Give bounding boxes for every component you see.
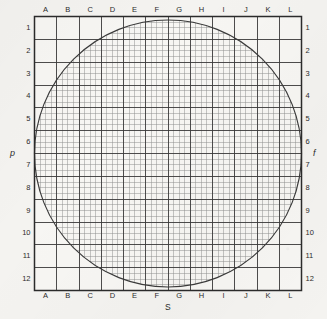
col-label-bottom-c: C xyxy=(82,292,98,300)
grid-chart-canvas xyxy=(0,0,327,319)
col-label-top-a: A xyxy=(38,6,54,14)
col-label-top-j: J xyxy=(238,6,254,14)
row-label-left-12: 12 xyxy=(13,275,31,283)
row-label-right-7: 7 xyxy=(306,161,324,169)
row-label-left-7: 7 xyxy=(13,161,31,169)
col-label-bottom-d: D xyxy=(104,292,120,300)
col-label-bottom-f: F xyxy=(149,292,165,300)
col-label-bottom-b: B xyxy=(60,292,76,300)
col-label-bottom-i: I xyxy=(216,292,232,300)
row-label-left-1: 1 xyxy=(13,24,31,32)
col-label-bottom-l: L xyxy=(282,292,298,300)
row-label-right-2: 2 xyxy=(306,47,324,55)
col-label-top-i: I xyxy=(216,6,232,14)
col-label-top-e: E xyxy=(127,6,143,14)
row-label-right-6: 6 xyxy=(306,138,324,146)
row-label-left-6: 6 xyxy=(13,138,31,146)
col-label-top-l: L xyxy=(282,6,298,14)
row-label-right-5: 5 xyxy=(306,115,324,123)
col-label-bottom-a: A xyxy=(38,292,54,300)
col-label-bottom-h: H xyxy=(193,292,209,300)
row-label-right-9: 9 xyxy=(306,207,324,215)
axis-title-bottom: S xyxy=(165,303,171,312)
row-label-left-3: 3 xyxy=(13,70,31,78)
row-label-left-11: 11 xyxy=(13,252,31,260)
figure-root: ABCDEFGHIJKL ABCDEFGHIJKL 12345678910111… xyxy=(0,0,327,319)
col-label-top-c: C xyxy=(82,6,98,14)
row-label-left-10: 10 xyxy=(13,229,31,237)
row-label-right-11: 11 xyxy=(306,252,324,260)
col-label-top-k: K xyxy=(260,6,276,14)
row-label-left-9: 9 xyxy=(13,207,31,215)
col-label-top-d: D xyxy=(104,6,120,14)
col-label-bottom-j: J xyxy=(238,292,254,300)
row-label-right-1: 1 xyxy=(306,24,324,32)
col-label-bottom-k: K xyxy=(260,292,276,300)
col-label-bottom-e: E xyxy=(127,292,143,300)
row-label-left-4: 4 xyxy=(13,92,31,100)
row-label-left-8: 8 xyxy=(13,184,31,192)
axis-title-left: p xyxy=(10,149,15,158)
axis-title-right: f xyxy=(313,149,316,158)
row-label-left-2: 2 xyxy=(13,47,31,55)
row-label-right-10: 10 xyxy=(306,229,324,237)
row-label-right-8: 8 xyxy=(306,184,324,192)
row-label-right-12: 12 xyxy=(306,275,324,283)
col-label-top-f: F xyxy=(149,6,165,14)
col-label-top-g: G xyxy=(171,6,187,14)
col-label-top-h: H xyxy=(193,6,209,14)
row-label-right-3: 3 xyxy=(306,70,324,78)
row-label-right-4: 4 xyxy=(306,92,324,100)
row-label-left-5: 5 xyxy=(13,115,31,123)
col-label-bottom-g: G xyxy=(171,292,187,300)
col-label-top-b: B xyxy=(60,6,76,14)
